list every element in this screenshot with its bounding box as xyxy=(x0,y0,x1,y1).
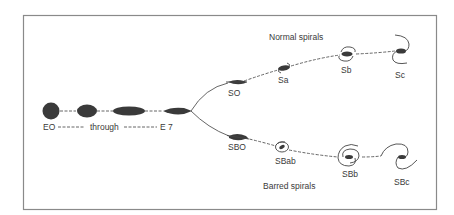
galaxy-e5-shape xyxy=(113,107,145,116)
galaxy-sb xyxy=(339,47,355,61)
galaxy-so xyxy=(226,80,247,84)
galaxy-sbo xyxy=(227,134,249,140)
hubble-tuning-fork-diagram: EO through E 7 Normal spirals SO Sa Sb S… xyxy=(0,0,454,215)
connector-line xyxy=(291,55,340,66)
galaxy-sc xyxy=(393,35,410,64)
barred-spirals-title: Barred spirals xyxy=(263,181,315,191)
galaxy-e7-shape xyxy=(163,108,192,115)
connector-line xyxy=(289,150,338,157)
label-so: SO xyxy=(228,88,241,98)
label-through: through xyxy=(90,122,119,132)
label-sbab: SBab xyxy=(275,156,296,166)
label-sbo: SBO xyxy=(228,142,246,152)
connector-line xyxy=(245,138,276,146)
fork-lower-branch xyxy=(191,111,229,136)
label-sb: Sb xyxy=(341,65,352,75)
connector-line xyxy=(356,51,395,54)
normal-spirals-title: Normal spirals xyxy=(269,32,323,42)
connector-line xyxy=(362,156,381,157)
label-e0: EO xyxy=(43,122,56,132)
galaxy-e0-shape xyxy=(43,103,60,120)
galaxy-sbc xyxy=(381,144,417,169)
fork-upper-branch xyxy=(191,83,228,111)
galaxy-sbb xyxy=(338,145,359,167)
galaxy-e3-shape xyxy=(77,105,97,118)
label-sbc: SBc xyxy=(394,177,410,187)
label-e7: E 7 xyxy=(160,122,173,132)
label-sa: Sa xyxy=(278,75,289,85)
galaxy-sbab xyxy=(276,142,289,152)
label-sbb: SBb xyxy=(342,169,358,179)
connector-line xyxy=(244,70,278,81)
galaxy-sa xyxy=(278,63,291,73)
label-sc: Sc xyxy=(395,70,406,80)
